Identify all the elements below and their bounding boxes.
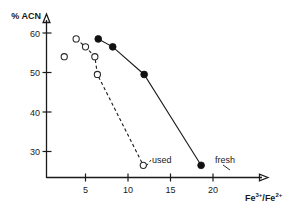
data-point-used-5	[140, 162, 146, 168]
y-tick-label-40: 40	[30, 108, 40, 118]
x-axis-title-base2: Fe	[265, 193, 276, 203]
data-point-used-4	[94, 71, 100, 77]
y-tick-label-30: 30	[30, 147, 40, 157]
data-point-fresh-2	[141, 71, 148, 78]
annotation-label-fresh: fresh	[215, 155, 235, 165]
series-line-fresh	[98, 39, 201, 165]
data-point-used-2	[82, 44, 88, 50]
x-tick-label-20: 20	[208, 185, 218, 195]
x-tick-label-15: 15	[165, 185, 175, 195]
x-axis-title: Fe3+/Fe2+	[245, 192, 283, 203]
data-point-fresh-1	[109, 43, 116, 50]
x-tick-label-10: 10	[123, 185, 133, 195]
y-axis-title: % ACN	[11, 11, 41, 21]
scatter-plot: 60 50 40 30 5 10 15 20 % ACN Fe3+/Fe2+ u…	[0, 0, 299, 207]
annotation-leader-fresh	[223, 165, 230, 170]
series-layer	[61, 36, 204, 169]
svg-text:Fe3+/Fe2+: Fe3+/Fe2+	[245, 192, 283, 203]
data-point-used-3	[92, 54, 98, 60]
data-point-fresh-3	[198, 162, 205, 169]
y-tick-label-50: 50	[30, 68, 40, 78]
annotation-layer: used fresh	[146, 155, 236, 170]
y-tick-label-60: 60	[30, 29, 40, 39]
data-point-used-0	[61, 54, 67, 60]
x-tick-label-5: 5	[83, 185, 88, 195]
y-axis-tick-labels: 60 50 40 30	[30, 29, 40, 158]
annotation-label-used: used	[152, 155, 172, 165]
data-point-fresh-0	[95, 36, 102, 43]
y-axis	[43, 14, 50, 178]
chart-figure: 60 50 40 30 5 10 15 20 % ACN Fe3+/Fe2+ u…	[0, 0, 299, 207]
series-line-used	[76, 39, 143, 165]
x-axis-title-base1: Fe	[245, 193, 256, 203]
x-axis	[47, 174, 269, 181]
data-point-used-1	[73, 36, 79, 42]
x-axis-title-sup2: 2+	[275, 192, 282, 198]
x-axis-tick-labels: 5 10 15 20	[83, 185, 218, 195]
